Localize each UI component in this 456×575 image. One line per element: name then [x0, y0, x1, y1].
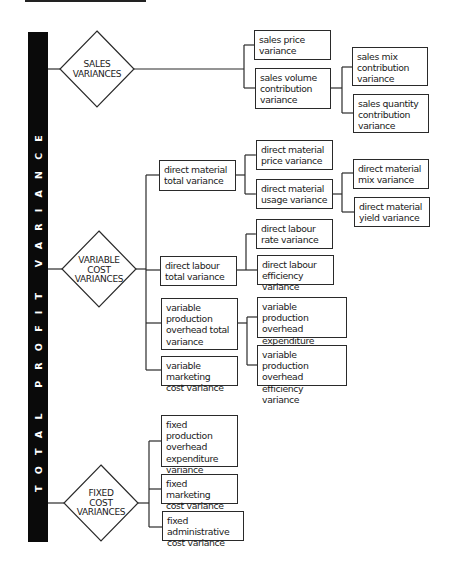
- direct-material-total-variance-box: direct material total variance: [159, 160, 236, 191]
- direct-labour-total-variance-box: direct labour total variance: [160, 256, 237, 286]
- box-line: direct material: [359, 201, 425, 212]
- fixed-cost-variances-label: FIXED COST VARIANCES: [77, 489, 126, 518]
- direct-labour-efficiency-variance-box: direct labour efficiency variance: [257, 255, 334, 285]
- box-line: direct labour: [261, 223, 328, 234]
- box-line: direct material: [358, 163, 424, 174]
- sales-price-variance-box: sales price variance: [254, 30, 331, 60]
- box-line: fixed administrative: [167, 515, 239, 537]
- box-line: overhead total: [166, 324, 233, 335]
- box-line: total variance: [164, 175, 231, 186]
- box-line: direct labour: [262, 259, 329, 270]
- box-line: contribution: [358, 109, 424, 120]
- box-line: variable: [166, 302, 233, 313]
- box-line: yield variance: [359, 212, 425, 223]
- box-line: sales quantity: [358, 98, 424, 109]
- sales-variances-label: SALES VARIANCES: [73, 60, 122, 79]
- label-line: VARIANCES: [75, 275, 124, 285]
- box-line: variable marketing: [166, 360, 233, 382]
- box-line: production: [166, 313, 233, 324]
- variable-cost-variances-label: VARIABLE COST VARIANCES: [75, 256, 124, 285]
- direct-material-mix-variance-box: direct material mix variance: [353, 159, 429, 189]
- box-line: expenditure: [166, 453, 233, 464]
- box-line: direct material: [261, 144, 328, 155]
- sales-mix-contribution-variance-box: sales mix contribution variance: [352, 47, 428, 86]
- variable-production-overhead-total-variance-box: variable production overhead total varia…: [161, 298, 238, 350]
- box-line: total variance: [165, 271, 232, 282]
- box-line: variance: [260, 94, 326, 105]
- box-line: rate variance: [261, 234, 328, 245]
- box-line: variance: [358, 120, 424, 131]
- box-line: overhead efficiency: [262, 371, 342, 393]
- box-line: cost variance: [167, 537, 239, 548]
- box-line: variance: [262, 394, 342, 405]
- sales-volume-contribution-variance-box: sales volume contribution variance: [255, 68, 331, 109]
- variable-marketing-cost-variance-box: variable marketing cost variance: [161, 356, 238, 386]
- label-line: VARIANCES: [77, 508, 126, 518]
- box-line: cost variance: [166, 500, 233, 511]
- box-line: variance: [259, 45, 326, 56]
- variable-production-overhead-expenditure-variance-box: variable production overhead expenditure…: [257, 297, 347, 338]
- box-line: fixed production: [166, 419, 233, 441]
- box-line: contribution: [357, 62, 423, 73]
- box-line: variable production: [262, 301, 342, 323]
- box-line: fixed marketing: [166, 478, 233, 500]
- box-line: variance: [357, 73, 423, 84]
- box-line: direct material: [261, 183, 328, 194]
- box-line: sales volume: [260, 72, 326, 83]
- direct-labour-rate-variance-box: direct labour rate variance: [256, 219, 333, 249]
- box-line: mix variance: [358, 174, 424, 185]
- label-line: VARIANCES: [73, 70, 122, 80]
- direct-material-yield-variance-box: direct material yield variance: [354, 197, 430, 227]
- box-line: usage variance: [261, 194, 328, 205]
- fixed-marketing-cost-variance-box: fixed marketing cost variance: [161, 474, 238, 504]
- direct-material-price-variance-box: direct material price variance: [256, 140, 333, 170]
- direct-material-usage-variance-box: direct material usage variance: [256, 179, 333, 209]
- fixed-production-overhead-expenditure-variance-box: fixed production overhead expenditure va…: [161, 415, 238, 467]
- fixed-administrative-cost-variance-box: fixed administrative cost variance: [162, 511, 244, 541]
- box-line: sales mix: [357, 51, 423, 62]
- box-line: overhead: [166, 441, 233, 452]
- box-line: overhead expenditure: [262, 323, 342, 345]
- variable-production-overhead-efficiency-variance-box: variable production overhead efficiency …: [257, 345, 347, 386]
- box-line: price variance: [261, 155, 328, 166]
- box-line: efficiency variance: [262, 270, 329, 292]
- box-line: cost variance: [166, 382, 233, 393]
- box-line: sales price: [259, 34, 326, 45]
- box-line: variable production: [262, 349, 342, 371]
- box-line: contribution: [260, 83, 326, 94]
- box-line: direct labour: [165, 260, 232, 271]
- box-line: direct material: [164, 164, 231, 175]
- sales-quantity-contribution-variance-box: sales quantity contribution variance: [353, 94, 429, 133]
- box-line: variance: [166, 336, 233, 347]
